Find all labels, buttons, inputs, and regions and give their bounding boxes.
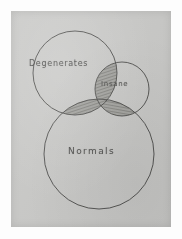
set-label-degenerates: Degenerates bbox=[29, 59, 88, 68]
set-label-normals: Normals bbox=[68, 146, 115, 156]
scanned-paper-sheet: Degenerates Insane Normals bbox=[11, 11, 171, 227]
venn-diagram-drawing bbox=[11, 11, 171, 227]
set-label-insane: Insane bbox=[101, 80, 128, 88]
screenshot-root: Degenerates Insane Normals bbox=[0, 0, 182, 239]
